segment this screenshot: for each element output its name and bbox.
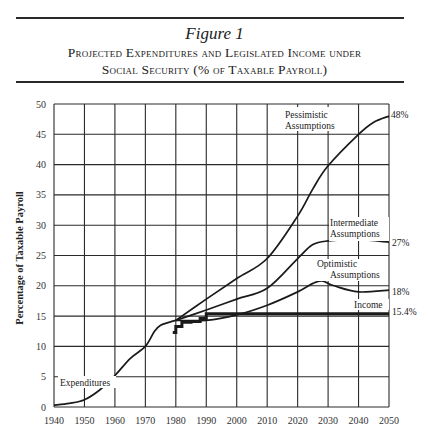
x-tick-label: 1980 xyxy=(166,415,186,426)
y-tick-label: 0 xyxy=(41,402,46,413)
x-tick-label: 2040 xyxy=(349,415,369,426)
x-tick-label: 1970 xyxy=(135,415,155,426)
x-tick-label: 2000 xyxy=(227,415,247,426)
x-tick-label: 2030 xyxy=(318,415,338,426)
end-label-18: 18% xyxy=(392,287,410,297)
label-pessimistic-2: Assumptions xyxy=(285,121,335,131)
y-tick-label: 15 xyxy=(36,311,46,322)
x-tick-label: 1960 xyxy=(105,415,125,426)
y-tick-label: 25 xyxy=(36,250,46,261)
y-tick-label: 5 xyxy=(41,371,46,382)
y-tick-label: 45 xyxy=(36,129,46,140)
x-tick-label: 1940 xyxy=(44,415,64,426)
x-tick-label: 1950 xyxy=(74,415,94,426)
x-tick-label: 2010 xyxy=(257,415,277,426)
y-tick-label: 35 xyxy=(36,189,46,200)
end-label-27: 27% xyxy=(392,238,410,248)
x-tick-label: 2050 xyxy=(379,415,399,426)
y-tick-label: 20 xyxy=(36,280,46,291)
label-optimistic-2: Assumptions xyxy=(330,270,380,280)
grid xyxy=(54,104,389,407)
label-income: Income xyxy=(354,300,383,310)
x-tick-label: 1990 xyxy=(196,415,216,426)
chart: 1940195019601970198019902000201020202030… xyxy=(0,0,429,444)
y-tick-label: 30 xyxy=(36,220,46,231)
end-label-15-4: 15.4% xyxy=(392,307,417,317)
y-tick-label: 40 xyxy=(36,159,46,170)
label-expenditures: Expenditures xyxy=(60,378,110,388)
x-tick-label: 2020 xyxy=(288,415,308,426)
end-label-48: 48% xyxy=(391,110,409,120)
label-pessimistic: Pessimistic xyxy=(285,110,328,120)
y-tick-label: 10 xyxy=(36,341,46,352)
label-intermediate-2: Assumptions xyxy=(330,229,380,239)
y-tick-label: 50 xyxy=(36,99,46,110)
label-intermediate: Intermediate xyxy=(330,218,378,228)
y-axis-label: Percentage of Taxable Payroll xyxy=(14,191,25,325)
label-optimistic: Optimistic xyxy=(317,259,357,269)
